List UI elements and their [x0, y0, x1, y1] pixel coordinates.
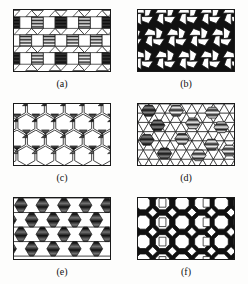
panel-f-svg	[138, 198, 234, 259]
panel-c-svg	[14, 104, 110, 165]
figure-cell-b: (b)	[124, 0, 248, 94]
figure-panel-grid: (a) (b)	[0, 0, 248, 284]
caption-b: (b)	[180, 78, 192, 89]
panel-a-square-triangle-tiling	[13, 9, 111, 72]
panel-d-triangle-hexagon-lattice	[137, 103, 235, 166]
figure-cell-e: (e)	[0, 188, 124, 284]
panel-a-svg	[14, 10, 110, 71]
panel-e-svg	[14, 198, 110, 259]
panel-e-hourglass-row-tiling	[13, 197, 111, 260]
caption-f: (f)	[181, 266, 191, 277]
figure-cell-d: (d)	[124, 94, 248, 188]
figure-cell-f: (f)	[124, 188, 248, 284]
panel-b-pinwheel-pentagon-tiling	[137, 9, 235, 72]
panel-b-svg	[138, 10, 234, 71]
caption-a: (a)	[56, 78, 67, 89]
panel-f-octagon-square-tiling	[137, 197, 235, 260]
panel-grid: (a) (b)	[0, 0, 248, 284]
caption-e: (e)	[56, 266, 67, 277]
caption-d: (d)	[180, 172, 192, 183]
panel-d-svg	[138, 104, 234, 165]
caption-c: (c)	[56, 172, 67, 183]
figure-cell-a: (a)	[0, 0, 124, 94]
figure-cell-c: (c)	[0, 94, 124, 188]
panel-c-hexagon-triangle-tiling	[13, 103, 111, 166]
